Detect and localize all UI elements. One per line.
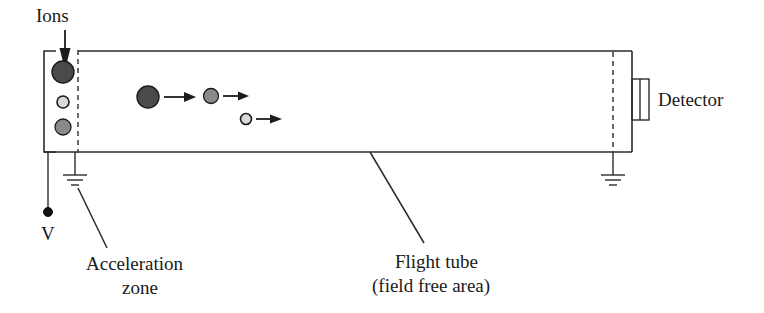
- acceleration-zone-label-line1: Acceleration: [86, 253, 184, 274]
- source-ion-medium: [55, 119, 71, 135]
- acceleration-zone-label-line2: zone: [122, 277, 158, 298]
- flying-ion-medium: [204, 89, 219, 104]
- flight-tube-leader-line: [370, 152, 424, 243]
- detector-label: Detector: [658, 89, 724, 110]
- flight-tube-label-line1: Flight tube: [395, 251, 478, 272]
- flying-ion-group-small: [241, 114, 283, 125]
- flying-ion-large: [137, 86, 159, 108]
- source-ion-small: [57, 96, 69, 108]
- acceleration-zone-leader-line: [78, 188, 107, 248]
- ions-label: Ions: [36, 5, 69, 26]
- flying-ion-group-medium: [204, 89, 250, 104]
- diagram-canvas: Ions: [0, 0, 764, 313]
- detector-assembly: [632, 79, 649, 120]
- ground-symbol-right: [601, 152, 625, 185]
- voltage-label: V: [41, 223, 55, 244]
- flight-tube-label-line2: (field free area): [372, 275, 490, 297]
- flying-ion-small: [241, 114, 252, 125]
- source-ion-large: [52, 61, 74, 83]
- flying-ion-group-large: [137, 86, 196, 108]
- ground-symbol-left: [63, 152, 87, 185]
- voltage-terminal-dot: [44, 208, 53, 217]
- tof-mass-spectrometer-diagram: Ions: [0, 0, 764, 313]
